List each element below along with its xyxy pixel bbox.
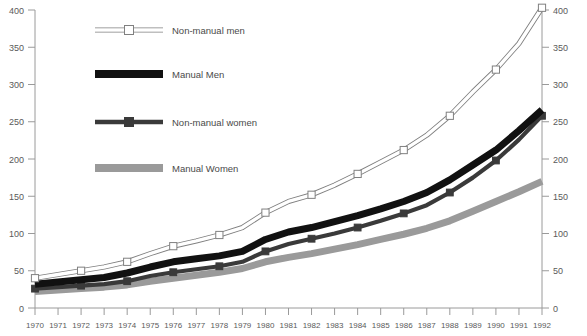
x-axis-tick-label: 1990 — [487, 321, 505, 330]
legend-marker — [125, 26, 134, 35]
x-axis-tick-label: 1975 — [141, 321, 159, 330]
y-axis-left-tick-label: 350 — [9, 43, 24, 53]
y-axis-left-tick-label: 250 — [9, 117, 24, 127]
legend-item-manual-women[interactable]: Manual Women — [95, 163, 238, 174]
legend-item-non-manual-men[interactable]: Non-manual men — [95, 25, 245, 36]
data-point-marker — [77, 267, 84, 274]
y-axis-right-tick-label: 350 — [553, 43, 568, 53]
x-axis-tick-label: 1972 — [72, 321, 90, 330]
x-axis-tick-label: 1979 — [234, 321, 252, 330]
legend-label: Manual Women — [172, 163, 238, 174]
data-point-marker — [124, 258, 131, 265]
legend-label: Non-manual men — [172, 25, 245, 36]
y-axis-left-tick-label: 150 — [9, 192, 24, 202]
data-point-marker — [124, 278, 131, 285]
x-axis-tick-label: 1987 — [418, 321, 436, 330]
y-axis-right-tick-label: 100 — [553, 229, 568, 239]
x-axis-tick-label: 1973 — [95, 321, 113, 330]
y-axis-right-tick-label: 250 — [553, 117, 568, 127]
x-axis-tick-label: 1974 — [118, 321, 136, 330]
data-series-group — [31, 4, 545, 292]
data-point-marker — [538, 4, 545, 11]
x-axis-tick-label: 1980 — [257, 321, 275, 330]
data-point-marker — [170, 269, 177, 276]
data-point-marker — [446, 189, 453, 196]
y-axis-right-tick-label: 400 — [553, 6, 568, 16]
data-point-marker — [170, 243, 177, 250]
legend-marker — [125, 118, 134, 127]
x-axis-tick-label: 1977 — [187, 321, 205, 330]
data-point-marker — [216, 263, 223, 270]
legend-swatch — [95, 70, 163, 78]
x-axis-tick-label: 1992 — [533, 321, 551, 330]
y-axis-left-tick-label: 0 — [19, 304, 24, 314]
y-axis-right-tick-label: 50 — [553, 266, 563, 276]
x-axis-tick-label: 1981 — [280, 321, 298, 330]
legend-label: Manual Men — [172, 69, 224, 80]
x-axis-tick-label: 1986 — [395, 321, 413, 330]
x-axis: 1970197119721973197419751976197719781979… — [26, 308, 551, 330]
data-point-marker — [262, 209, 269, 216]
x-axis-tick-label: 1985 — [372, 321, 390, 330]
y-axis-left-tick-label: 300 — [9, 80, 24, 90]
data-point-marker — [493, 157, 500, 164]
legend-label: Non-manual women — [172, 117, 257, 128]
y-axis-left-tick-label: 50 — [14, 266, 24, 276]
y-axis-left: 050100150200250300350400 — [9, 6, 35, 314]
line-chart: 050100150200250300350400 050100150200250… — [0, 0, 587, 336]
legend-swatch — [95, 164, 163, 172]
y-axis-right-tick-label: 300 — [553, 80, 568, 90]
data-point-marker — [400, 210, 407, 217]
x-axis-tick-label: 1988 — [441, 321, 459, 330]
x-axis-tick-label: 1983 — [326, 321, 344, 330]
x-axis-tick-label: 1984 — [349, 321, 367, 330]
y-axis-left-tick-label: 200 — [9, 155, 24, 165]
data-point-marker — [400, 146, 407, 153]
x-axis-tick-label: 1991 — [510, 321, 528, 330]
x-axis-tick-label: 1970 — [26, 321, 44, 330]
data-point-marker — [354, 224, 361, 231]
y-axis-right-tick-label: 0 — [553, 304, 558, 314]
x-axis-tick-label: 1976 — [164, 321, 182, 330]
x-axis-tick-label: 1989 — [464, 321, 482, 330]
x-axis-tick-label: 1971 — [49, 321, 67, 330]
legend-item-manual-men[interactable]: Manual Men — [95, 69, 224, 80]
x-axis-tick-label: 1978 — [210, 321, 228, 330]
data-point-marker — [216, 231, 223, 238]
y-axis-right-tick-label: 200 — [553, 155, 568, 165]
series-non-manual-men — [31, 4, 545, 282]
data-point-marker — [308, 191, 315, 198]
x-axis-tick-label: 1982 — [303, 321, 321, 330]
data-point-marker — [492, 66, 499, 73]
data-point-marker — [446, 112, 453, 119]
y-axis-left-tick-label: 100 — [9, 229, 24, 239]
y-axis-left-tick-label: 400 — [9, 6, 24, 16]
data-point-marker — [308, 235, 315, 242]
data-point-marker — [354, 170, 361, 177]
y-axis-right-tick-label: 150 — [553, 192, 568, 202]
chart-legend: Non-manual menManual MenNon-manual women… — [95, 25, 257, 174]
data-point-marker — [31, 275, 38, 282]
legend-item-non-manual-women[interactable]: Non-manual women — [95, 117, 257, 128]
y-axis-right: 050100150200250300350400 — [542, 6, 568, 314]
data-point-marker — [262, 248, 269, 255]
chart-container: 050100150200250300350400 050100150200250… — [0, 0, 587, 336]
